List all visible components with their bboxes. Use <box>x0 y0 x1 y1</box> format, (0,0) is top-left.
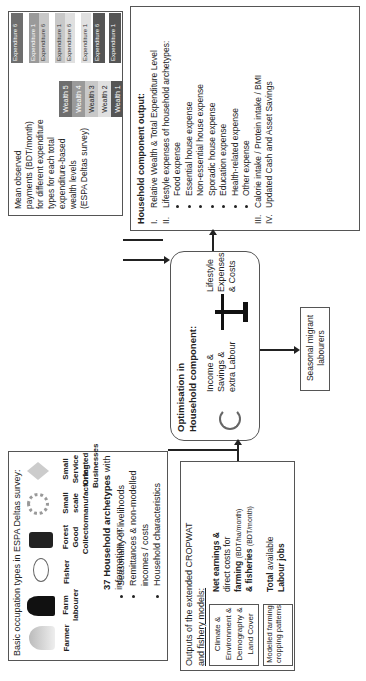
fish-icon <box>33 558 49 582</box>
connector-line <box>123 240 163 242</box>
expenditure-cell: Expenditure 6 <box>39 13 49 63</box>
type-manufacturing: Small scale manufacturing <box>61 486 91 520</box>
farm-labourer-icon <box>27 596 55 616</box>
expenditure-cell: Expenditure 6 <box>11 13 23 63</box>
wealth-desc: Mean observed payments (BDT/month) for d… <box>13 119 90 209</box>
wealth-box: Mean observed payments (BDT/month) for d… <box>8 11 123 216</box>
type-farmer: Farmer <box>61 622 73 654</box>
output-list: I.Relative Wealth & Total Expenditure Le… <box>149 41 276 224</box>
input-climate: Climate & Environment & Demography & Lan… <box>209 604 259 666</box>
expenditure-cell: Expenditure 1 <box>109 13 121 63</box>
models-title-1: Outputs of the extended CROPWAT <box>183 522 195 666</box>
wealth-5: Wealth 5 <box>59 81 72 117</box>
diagram-canvas: Basic occupation types in ESPA Deltas su… <box>0 0 366 681</box>
type-fisher: Fisher <box>61 556 73 588</box>
type-farm-labourer: Farm labourer <box>61 588 81 622</box>
balance-scale-icon <box>215 294 249 330</box>
input-cropping: Modelled farming cropping patterns <box>263 604 293 666</box>
models-title-2: and fishery models: <box>195 588 207 666</box>
service-icon <box>27 462 49 480</box>
expenditure-cell: Expenditure 6 <box>93 13 105 63</box>
optimisation-title-2: Household component: <box>187 326 199 432</box>
optimisation-title-1: Optimisation in <box>175 363 187 432</box>
connector-arrow <box>212 231 214 251</box>
models-box: Outputs of the extended CROPWAT and fish… <box>180 461 295 671</box>
cycle-icon <box>219 408 241 430</box>
forest-good-icon <box>29 532 53 548</box>
optimisation-box: Optimisation in Household component: Inc… <box>170 251 260 441</box>
migrant-box: Seasonal migrant labourers <box>300 307 330 391</box>
expenditure-cell: Expenditure 1 <box>55 13 65 63</box>
wealth-3: Wealth 3 <box>85 81 98 117</box>
household-output-box: Household component output: I.Relative W… <box>130 6 360 231</box>
net-earnings-output: Net earnings & direct costs for farming … <box>211 506 255 592</box>
occupation-title: Basic occupation types in ESPA Deltas su… <box>11 470 23 656</box>
expenditure-cell: Expenditure 1 <box>81 13 91 63</box>
optimisation-right: Lifestyle Expenses & Costs <box>205 252 238 292</box>
expenditure-cell: Expenditure 1 <box>29 13 39 63</box>
labour-jobs-output: Total available Labour jobs <box>265 536 287 592</box>
farmer-icon <box>29 626 55 650</box>
wealth-2: Wealth 2 <box>98 81 111 117</box>
occupation-box: Basic occupation types in ESPA Deltas su… <box>8 451 168 661</box>
connector-arrow <box>237 441 239 461</box>
type-forest: Forest Good Collector <box>61 518 91 556</box>
archetype-bullets: Seasonality of livelihoods Remittances &… <box>115 452 163 600</box>
optimisation-left: Income & Savings & extra Labour <box>205 341 238 392</box>
gears-icon <box>27 493 49 515</box>
wealth-1: Wealth 1 <box>111 81 123 117</box>
output-title: Household component output: <box>135 93 147 224</box>
connector-arrow <box>260 350 298 352</box>
wealth-4: Wealth 4 <box>72 81 85 117</box>
expenditure-cell: Expenditure 6 <box>65 13 75 63</box>
connector-arrow <box>123 260 168 262</box>
type-service: Small Service Oriented Businesses <box>61 450 101 488</box>
connector-line <box>168 450 238 452</box>
